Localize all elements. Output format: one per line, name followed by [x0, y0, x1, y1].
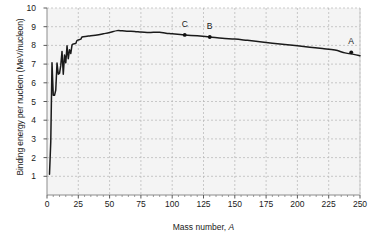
annotation-marker-c	[183, 33, 187, 37]
annotation-label-a: A	[348, 37, 354, 46]
x-tick-label: 100	[157, 200, 187, 209]
x-tick-label: 175	[251, 200, 281, 209]
annotation-marker-a	[349, 50, 353, 54]
x-tick-label: 0	[32, 200, 62, 209]
x-axis-title: Mass number, A	[47, 222, 360, 232]
y-tick-label: 5	[16, 98, 36, 107]
y-tick-label: 7	[16, 60, 36, 69]
x-axis-title-text: Mass number, A	[173, 222, 234, 232]
y-tick-label: 9	[16, 23, 36, 32]
y-tick-label: 6	[16, 79, 36, 88]
annotation-label-b: B	[207, 22, 213, 31]
x-tick-label: 225	[314, 200, 344, 209]
annotation-marker-b	[208, 35, 212, 39]
y-tick-label: 8	[16, 41, 36, 50]
x-tick-label: 50	[95, 200, 125, 209]
annotation-label-c: C	[182, 20, 188, 29]
x-tick-label: 250	[345, 200, 375, 209]
x-tick-label: 200	[282, 200, 312, 209]
x-tick-label: 125	[189, 200, 219, 209]
x-tick-label: 150	[220, 200, 250, 209]
y-tick-label: 4	[16, 116, 36, 125]
y-tick-label: 10	[16, 4, 36, 13]
x-tick-label: 75	[126, 200, 156, 209]
y-tick-label: 1	[16, 172, 36, 181]
y-tick-label: 2	[16, 154, 36, 163]
x-tick-label: 25	[63, 200, 93, 209]
binding-energy-chart: Binding energy per nucleon (MeV/nucleon)…	[0, 0, 380, 239]
x-axis-title-symbol: A	[229, 222, 235, 232]
y-tick-label: 3	[16, 135, 36, 144]
